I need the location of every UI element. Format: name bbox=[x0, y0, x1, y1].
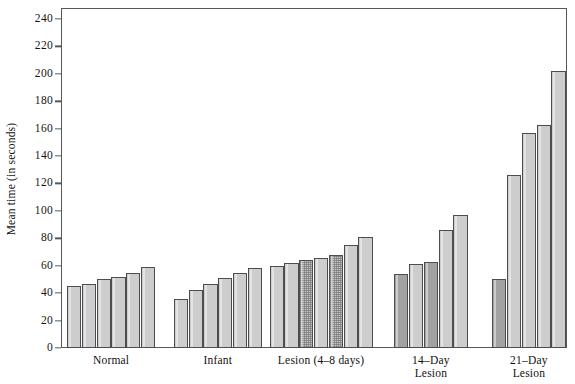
bar bbox=[507, 175, 521, 348]
bar-highlight bbox=[235, 274, 237, 347]
bar bbox=[284, 263, 298, 348]
bar bbox=[522, 133, 536, 348]
bar bbox=[551, 71, 565, 348]
bar-highlight bbox=[205, 285, 207, 347]
bar bbox=[233, 273, 247, 348]
bar bbox=[141, 267, 155, 348]
bar bbox=[492, 279, 506, 348]
bar-highlight bbox=[346, 246, 348, 347]
bar-highlight bbox=[99, 280, 101, 347]
y-tick-mark bbox=[55, 265, 61, 266]
bar bbox=[329, 255, 343, 348]
y-tick-mark bbox=[55, 155, 61, 156]
bar bbox=[97, 279, 111, 348]
bar-chart: Mean time (in seconds) 02040608010012014… bbox=[0, 0, 575, 384]
bar bbox=[82, 284, 96, 348]
bar-highlight bbox=[396, 275, 398, 347]
bar-highlight bbox=[301, 261, 303, 347]
y-tick-mark bbox=[55, 46, 61, 47]
bar-highlight bbox=[411, 265, 413, 347]
y-tick-mark bbox=[55, 238, 61, 239]
y-tick-mark bbox=[55, 320, 61, 321]
bar-highlight bbox=[494, 280, 496, 347]
y-tick-label: 60 bbox=[0, 260, 61, 272]
bar-highlight bbox=[524, 134, 526, 347]
bar-highlight bbox=[113, 278, 115, 347]
y-tick-label: 240 bbox=[0, 13, 61, 25]
y-tick-mark bbox=[55, 293, 61, 294]
bar-highlight bbox=[128, 274, 130, 347]
y-tick-label: 140 bbox=[0, 150, 61, 162]
bar-highlight bbox=[272, 267, 274, 347]
y-tick-mark bbox=[55, 128, 61, 129]
bar-highlight bbox=[426, 263, 428, 347]
bar bbox=[248, 268, 262, 348]
bar-highlight bbox=[509, 176, 511, 347]
y-tick-label: 100 bbox=[0, 205, 61, 217]
y-tick-label: 20 bbox=[0, 315, 61, 327]
bar bbox=[111, 277, 125, 348]
y-tick-mark bbox=[55, 183, 61, 184]
bar bbox=[439, 230, 453, 348]
y-tick-label: 160 bbox=[0, 123, 61, 135]
bar-highlight bbox=[286, 264, 288, 347]
bar-highlight bbox=[331, 256, 333, 347]
bar-highlight bbox=[316, 259, 318, 347]
y-tick-label: 200 bbox=[0, 68, 61, 80]
bar-highlight bbox=[191, 291, 193, 347]
bar bbox=[299, 260, 313, 348]
bar bbox=[314, 258, 328, 348]
bar-highlight bbox=[360, 238, 362, 347]
y-tick-label: 120 bbox=[0, 178, 61, 190]
bar bbox=[424, 262, 438, 348]
y-tick-mark bbox=[55, 18, 61, 19]
bar bbox=[344, 245, 358, 348]
bar bbox=[218, 278, 232, 348]
bar-highlight bbox=[220, 279, 222, 347]
bar-highlight bbox=[553, 72, 555, 347]
y-tick-label: 40 bbox=[0, 287, 61, 299]
y-tick-label: 80 bbox=[0, 233, 61, 245]
bar-highlight bbox=[539, 126, 541, 347]
bar-highlight bbox=[69, 287, 71, 347]
y-tick-mark bbox=[55, 347, 61, 348]
bar bbox=[270, 266, 284, 348]
y-tick-label: 0 bbox=[0, 342, 61, 354]
y-tick-label: 220 bbox=[0, 41, 61, 53]
y-tick-mark bbox=[55, 73, 61, 74]
bar bbox=[358, 237, 372, 348]
bar bbox=[409, 264, 423, 348]
bar-highlight bbox=[84, 285, 86, 347]
x-group-label: 21–Day Lesion bbox=[447, 354, 575, 380]
y-tick-mark bbox=[55, 101, 61, 102]
bar bbox=[203, 284, 217, 348]
bar bbox=[126, 273, 140, 348]
y-tick-mark bbox=[55, 210, 61, 211]
bar-highlight bbox=[455, 216, 457, 347]
bar bbox=[174, 299, 188, 348]
plot-area: 020406080100120140160180200220240 bbox=[61, 8, 567, 348]
bar-highlight bbox=[176, 300, 178, 347]
bar bbox=[537, 125, 551, 348]
bar bbox=[189, 290, 203, 348]
y-tick-label: 180 bbox=[0, 95, 61, 107]
bar-highlight bbox=[441, 231, 443, 347]
bar bbox=[453, 215, 467, 348]
bar-highlight bbox=[250, 269, 252, 347]
bar bbox=[67, 286, 81, 348]
bar bbox=[394, 274, 408, 348]
bar-highlight bbox=[143, 268, 145, 347]
